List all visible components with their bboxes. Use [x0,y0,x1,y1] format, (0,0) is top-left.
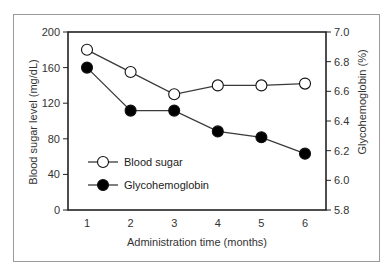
axis-ticks: 040801201602005.86.06.26.46.66.87.012345… [42,26,350,229]
right-tick-label: 6.0 [334,174,349,186]
right-tick-label: 5.8 [334,204,349,216]
x-axis-title: Administration time (months) [127,236,267,248]
legend-open-circle-icon [98,157,109,168]
x-tick-label: 2 [128,217,134,229]
x-tick-label: 6 [302,217,308,229]
data-series [82,44,311,159]
dual-axis-line-chart: 040801201602005.86.06.26.46.66.87.012345… [0,0,391,277]
filled-circle-marker [125,105,136,116]
series-line [87,68,305,154]
x-tick-label: 1 [84,217,90,229]
series-line [87,50,305,95]
x-tick-label: 5 [258,217,264,229]
legend: Blood sugarGlycohemoglobin [88,156,209,191]
filled-circle-marker [82,62,93,73]
right-tick-label: 6.2 [334,145,349,157]
left-tick-label: 40 [48,168,60,180]
open-circle-marker [169,89,180,100]
open-circle-marker [82,44,93,55]
filled-circle-marker [256,132,267,143]
left-tick-label: 200 [42,26,60,38]
right-tick-label: 7.0 [334,26,349,38]
open-circle-marker [125,67,136,78]
legend-label: Glycohemoglobin [124,179,209,191]
legend-label: Blood sugar [124,156,183,168]
left-tick-label: 160 [42,62,60,74]
x-tick-label: 4 [215,217,221,229]
legend-filled-circle-icon [98,180,109,191]
filled-circle-marker [300,148,311,159]
left-tick-label: 80 [48,133,60,145]
open-circle-marker [300,78,311,89]
filled-circle-marker [169,105,180,116]
left-tick-label: 120 [42,97,60,109]
x-tick-label: 3 [171,217,177,229]
left-y-axis-title: Blood sugar level (mg/dL) [27,59,39,184]
right-tick-label: 6.6 [334,85,349,97]
right-tick-label: 6.8 [334,56,349,68]
filled-circle-marker [212,126,223,137]
open-circle-marker [256,80,267,91]
left-tick-label: 0 [54,204,60,216]
open-circle-marker [212,80,223,91]
right-tick-label: 6.4 [334,115,349,127]
right-y-axis-title: Glycohemoglobin (%) [356,49,368,154]
